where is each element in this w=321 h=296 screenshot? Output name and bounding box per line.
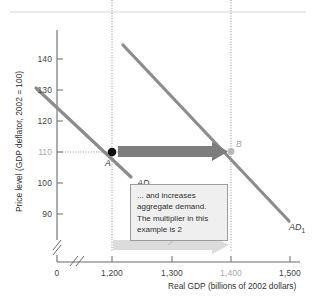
shift-arrow: [118, 142, 228, 161]
ad0-curve: [36, 88, 131, 177]
point-a-marker: [108, 148, 117, 157]
point-a-label: A: [105, 158, 111, 168]
callout-text: ... and increases aggregate demand. The …: [137, 191, 208, 234]
point-b-label: B: [236, 139, 242, 149]
callout-box: ... and increases aggregate demand. The …: [130, 184, 228, 241]
ad1-label-base: AD: [289, 222, 302, 232]
chart-figure: Price level (GDP deflator, 2002 = 100) 1…: [0, 0, 321, 296]
ad1-label-sub: 1: [302, 227, 306, 234]
x-tick-label-1200: 1,200: [95, 268, 129, 278]
y-tick-label-130: 130: [28, 85, 52, 95]
y-tick-label-90: 90: [28, 209, 52, 219]
point-b-marker: [228, 148, 235, 155]
x-tick-label-0: 0: [50, 268, 64, 278]
y-axis-title: Price level (GDP deflator, 2002 = 100): [14, 71, 24, 212]
y-tick-label-110: 110: [28, 147, 52, 157]
x-axis-title: Real GDP (billions of 2002 dollars): [168, 281, 296, 291]
y-tick-label-140: 140: [28, 54, 52, 64]
y-tick-label-100: 100: [28, 178, 52, 188]
y-axis-break-1: [53, 240, 61, 250]
x-tick-label-1500: 1,500: [273, 268, 307, 278]
x-tick-label-1300: 1,300: [155, 268, 189, 278]
x-tick-label-1400: 1,400: [214, 268, 248, 278]
ad1-label: AD1: [289, 222, 305, 234]
y-tick-label-120: 120: [28, 116, 52, 126]
y-axis-break-2: [53, 245, 61, 255]
